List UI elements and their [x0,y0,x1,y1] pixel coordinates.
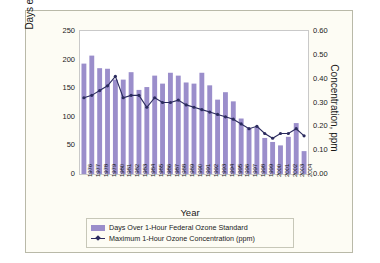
chart-legend: Days Over 1-Hour Federal Ozone Standard … [86,218,294,248]
x-axis-tick-label: 2003 [298,164,305,177]
x-axis-tick-label: 1985 [157,164,164,177]
x-axis-tick-label: 1989 [188,164,195,177]
legend-item-bars: Days Over 1-Hour Federal Ozone Standard [91,222,289,233]
x-axis-tick-label: 1976 [86,164,93,177]
x-axis-tick-label: 1995 [236,164,243,177]
x-axis-tick-label: 1977 [94,164,101,177]
y-axis-right-tick: 0.50 [313,50,339,59]
legend-swatch-icon [91,225,105,231]
chart-canvas [80,31,308,174]
x-axis-tick-label: 1982 [133,164,140,177]
y-axis-left-tick: 150 [49,83,75,92]
x-axis-tick-label: 1996 [243,164,250,177]
x-axis-tick-label: 1990 [196,164,203,177]
x-axis-tick-label: 2004 [306,164,313,177]
x-axis-tick-label: 2002 [291,164,298,177]
legend-item-line: Maximum 1-Hour Ozone Concentration (ppm) [91,233,289,244]
y-axis-left-tick: 100 [49,112,75,121]
x-axis-tick-label: 1997 [251,164,258,177]
x-axis-tick-label: 1993 [220,164,227,177]
x-axis-tick-label: 2000 [275,164,282,177]
x-axis-tick-label: 1999 [267,164,274,177]
y-axis-left-title: Days exceeding federal standard [24,0,38,33]
x-axis-tick-label: 1987 [173,164,180,177]
y-axis-left-tick: 50 [49,140,75,149]
x-axis-tick-label: 1998 [259,164,266,177]
y-axis-right-tick: 0.00 [313,169,339,178]
y-axis-right-tick: 0.30 [313,98,339,107]
plot-area [79,30,309,175]
x-axis-tick-label: 1979 [110,164,117,177]
x-axis-tick-label: 1994 [228,164,235,177]
x-axis-tick-label: 1981 [125,164,132,177]
y-axis-left-tick: 250 [49,26,75,35]
y-axis-left-tick: 200 [49,55,75,64]
x-axis-tick-label: 1986 [165,164,172,177]
y-axis-right-tick: 0.20 [313,121,339,130]
y-axis-right-tick: 0.10 [313,145,339,154]
x-axis-tick-label: 1978 [102,164,109,177]
x-axis-tick-label: 2001 [283,164,290,177]
x-axis-tick-label: 1980 [118,164,125,177]
chart-frame: Days exceeding federal standard Concentr… [25,10,353,253]
y-axis-left-tick: 0 [49,169,75,178]
x-axis-tick-label: 1988 [180,164,187,177]
x-axis-tick-label: 1991 [204,164,211,177]
x-axis-tick-label: 1984 [149,164,156,177]
x-axis-tick-label: 1983 [141,164,148,177]
y-axis-right-tick: 0.60 [313,26,339,35]
legend-label-line: Maximum 1-Hour Ozone Concentration (ppm) [109,234,255,243]
x-axis-title: Year [26,207,354,218]
legend-line-diamond-icon [91,235,105,242]
x-axis-tick-label: 1992 [212,164,219,177]
legend-label-bars: Days Over 1-Hour Federal Ozone Standard [109,223,248,232]
y-axis-right-tick: 0.40 [313,74,339,83]
